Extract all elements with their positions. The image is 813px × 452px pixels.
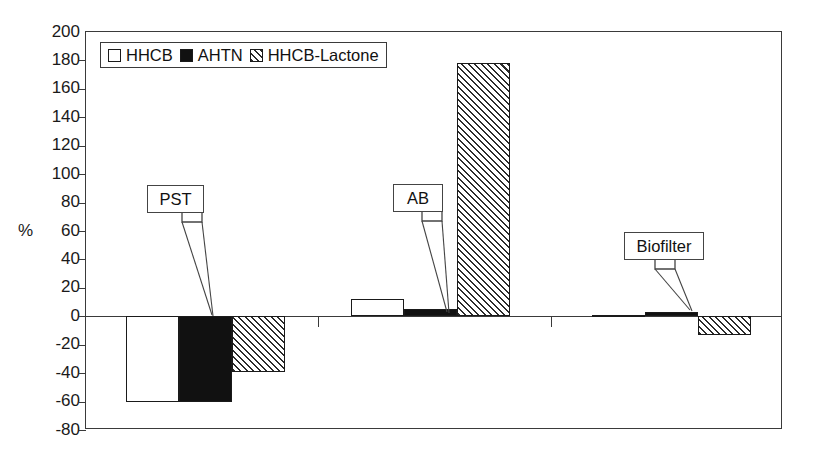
y-tickmark [79, 146, 86, 147]
y-tick-label: 80 [28, 193, 80, 210]
y-tickmark [79, 203, 86, 204]
y-tickmark [79, 259, 86, 260]
bar-pst-ahtn [179, 316, 232, 401]
callout-pst: PST [147, 185, 204, 213]
y-tick-label: -60 [28, 392, 80, 409]
callout-leader-pst [175, 211, 219, 320]
legend-label: AHTN [198, 47, 243, 64]
callout-leader-ab [415, 210, 455, 317]
bar-ab-hhcb [351, 299, 404, 316]
callout-biofilter: Biofilter [624, 232, 704, 260]
y-tickmark [79, 174, 86, 175]
legend-item-hhcb-lactone: HHCB-Lactone [250, 47, 379, 64]
y-axis-tick-labels: 200180160140120100806040200-20-40-60-80 [28, 0, 80, 452]
bar-biofilter-hhcb-lactone [698, 316, 751, 334]
y-tick-label: 0 [28, 307, 80, 324]
callout-leader-biofilter [648, 258, 698, 315]
x-axis-separator [318, 316, 319, 327]
bar-ab-hhcb-lactone [457, 63, 510, 316]
y-tick-label: -80 [28, 421, 80, 438]
y-tick-label: 120 [28, 136, 80, 153]
y-tick-label: 160 [28, 79, 80, 96]
y-tickmark [79, 316, 86, 317]
bar-biofilter-hhcb [592, 315, 645, 317]
open-square-swatch [108, 49, 121, 62]
y-tick-label: 60 [28, 222, 80, 239]
legend: HHCBAHTNHHCB-Lactone [100, 42, 387, 68]
y-tickmark [79, 288, 86, 289]
y-tick-label: -40 [28, 364, 80, 381]
legend-label: HHCB-Lactone [268, 47, 379, 64]
solid-square-swatch [180, 49, 193, 62]
y-tickmark [79, 117, 86, 118]
bar-pst-hhcb [126, 316, 179, 401]
y-tickmark [79, 373, 86, 374]
y-tick-label: -20 [28, 335, 80, 352]
y-tick-label: 20 [28, 278, 80, 295]
y-tickmark [79, 89, 86, 90]
y-tickmark [79, 430, 86, 431]
y-tick-label: 140 [28, 108, 80, 125]
y-tickmark [79, 345, 86, 346]
legend-item-ahtn: AHTN [180, 47, 243, 64]
y-tick-label: 100 [28, 165, 80, 182]
callout-ab: AB [393, 184, 443, 212]
x-axis-separator [551, 316, 552, 327]
legend-label: HHCB [126, 47, 173, 64]
y-tickmark [79, 60, 86, 61]
y-tick-label: 40 [28, 250, 80, 267]
y-tickmark [79, 231, 86, 232]
y-tick-label: 200 [28, 23, 80, 40]
legend-item-hhcb: HHCB [108, 47, 173, 64]
chart-figure: % 200180160140120100806040200-20-40-60-8… [0, 0, 813, 452]
bar-pst-hhcb-lactone [232, 316, 285, 371]
y-tick-label: 180 [28, 51, 80, 68]
y-tickmark [79, 402, 86, 403]
hatched-square-swatch [250, 49, 263, 62]
